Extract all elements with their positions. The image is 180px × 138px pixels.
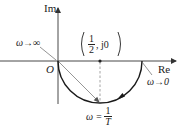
omega-mid-fraction: 1 T xyxy=(104,106,112,127)
center-fraction-denominator: 2 xyxy=(88,44,95,55)
origin-label: O xyxy=(46,64,54,75)
omega-zero-leader xyxy=(142,62,152,75)
omega-mid-denominator: T xyxy=(104,116,112,127)
center-coordinate-label: 1 2 , j0 xyxy=(88,34,109,55)
center-fraction-numerator: 1 xyxy=(88,34,95,44)
curve-direction-arrow-icon xyxy=(117,93,125,100)
omega-mid-label: ω = 1 T xyxy=(86,106,112,127)
paren-left xyxy=(82,32,85,56)
paren-right xyxy=(118,32,121,56)
imag-axis-label: Im xyxy=(44,3,56,14)
real-axis-label: Re xyxy=(158,64,170,75)
center-fraction: 1 2 xyxy=(88,34,95,55)
omega-infinity-leader xyxy=(40,47,56,60)
omega-mid-numerator: 1 xyxy=(105,106,112,116)
center-suffix: , j0 xyxy=(96,40,109,50)
center-point xyxy=(98,59,101,62)
omega-mid-prefix: ω = xyxy=(86,112,102,122)
omega-zero-label: ω→0 xyxy=(147,77,169,87)
frequency-vector xyxy=(59,62,99,102)
omega-infinity-label: ω→∞ xyxy=(16,38,40,48)
